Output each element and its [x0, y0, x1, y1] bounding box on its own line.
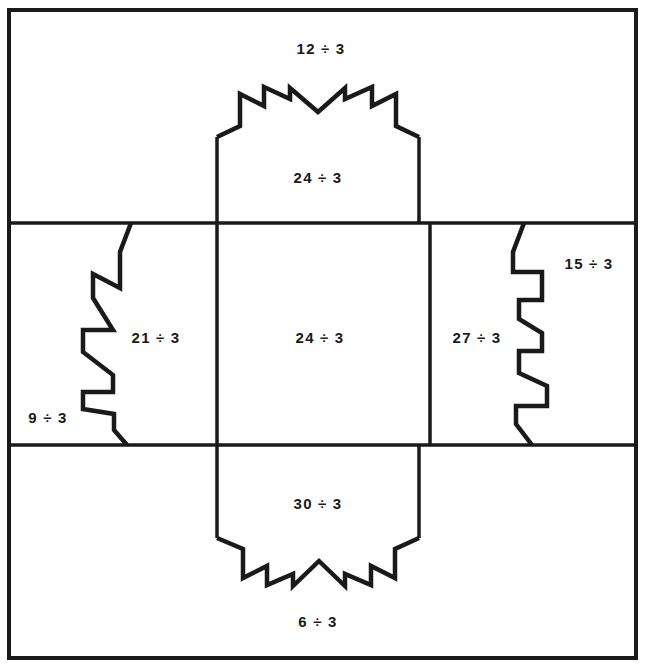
label-left-outer: 9 ÷ 3: [28, 409, 67, 426]
top-flap-sawtooth-edge: [217, 87, 419, 137]
label-right-outer: 15 ÷ 3: [565, 255, 614, 272]
worksheet-canvas: 12 ÷ 3 24 ÷ 3 9 ÷ 3 21 ÷ 3 24 ÷ 3 27 ÷ 3…: [0, 0, 646, 668]
label-bottom-outer: 6 ÷ 3: [298, 613, 337, 630]
label-right-flap: 27 ÷ 3: [453, 329, 502, 346]
label-bottom-flap: 30 ÷ 3: [294, 495, 343, 512]
label-center: 24 ÷ 3: [296, 329, 345, 346]
label-top-outer: 12 ÷ 3: [297, 40, 346, 57]
label-left-flap: 21 ÷ 3: [132, 329, 181, 346]
label-top-flap: 24 ÷ 3: [294, 169, 343, 186]
bottom-flap-sawtooth-edge: [217, 538, 419, 586]
right-flap-sawtooth-edge: [513, 223, 547, 445]
left-flap-sawtooth-edge: [83, 223, 131, 445]
